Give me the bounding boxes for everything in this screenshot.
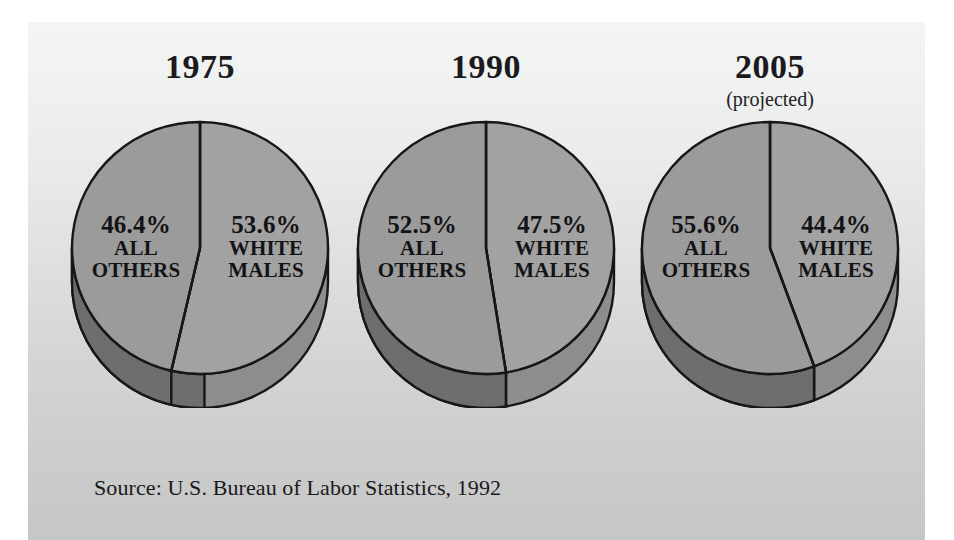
- slice-value: 46.4%: [76, 212, 196, 238]
- slice-label-all-others: 46.4% ALL OTHERS: [76, 212, 196, 282]
- pie-chart-1975: 1975 46.4% ALL OTHERS 53.6% WHITE MALES: [50, 22, 350, 462]
- slice-value: 52.5%: [362, 212, 482, 238]
- pie-graphic: 52.5% ALL OTHERS 47.5% WHITE MALES: [350, 118, 622, 408]
- chart-panel: 1975 46.4% ALL OTHERS 53.6% WHITE MALES …: [28, 22, 925, 540]
- slice-label-line1: ALL: [76, 238, 196, 260]
- slice-value: 53.6%: [206, 212, 326, 238]
- chart-title-year: 1975: [50, 48, 350, 86]
- pie-chart-2005: 2005 (projected) 55.6% ALL OTHERS 44.4% …: [620, 22, 920, 462]
- slice-label-line1: ALL: [646, 238, 766, 260]
- slice-label-white-males: 53.6% WHITE MALES: [206, 212, 326, 282]
- slice-label-line2: MALES: [776, 260, 896, 282]
- slice-label-line1: WHITE: [206, 238, 326, 260]
- slice-label-line2: OTHERS: [362, 260, 482, 282]
- pie-graphic: 55.6% ALL OTHERS 44.4% WHITE MALES: [634, 118, 906, 408]
- slice-label-all-others: 52.5% ALL OTHERS: [362, 212, 482, 282]
- slice-value: 55.6%: [646, 212, 766, 238]
- slice-label-line2: OTHERS: [76, 260, 196, 282]
- slice-label-all-others: 55.6% ALL OTHERS: [646, 212, 766, 282]
- chart-title-year: 2005: [620, 48, 920, 86]
- slice-label-line2: OTHERS: [646, 260, 766, 282]
- slice-label-white-males: 44.4% WHITE MALES: [776, 212, 896, 282]
- pie-chart-1990: 1990 52.5% ALL OTHERS 47.5% WHITE MALES: [336, 22, 636, 462]
- chart-title-year: 1990: [336, 48, 636, 86]
- slice-label-line1: WHITE: [492, 238, 612, 260]
- slice-value: 47.5%: [492, 212, 612, 238]
- source-note: Source: U.S. Bureau of Labor Statistics,…: [94, 475, 501, 501]
- pie-graphic: 46.4% ALL OTHERS 53.6% WHITE MALES: [64, 118, 336, 408]
- slice-label-line2: MALES: [206, 260, 326, 282]
- slice-label-line1: WHITE: [776, 238, 896, 260]
- slice-label-line2: MALES: [492, 260, 612, 282]
- slice-label-line1: ALL: [362, 238, 482, 260]
- slice-label-white-males: 47.5% WHITE MALES: [492, 212, 612, 282]
- figure-root: 1975 46.4% ALL OTHERS 53.6% WHITE MALES …: [0, 0, 954, 540]
- chart-subtitle-projected: (projected): [620, 88, 920, 111]
- slice-value: 44.4%: [776, 212, 896, 238]
